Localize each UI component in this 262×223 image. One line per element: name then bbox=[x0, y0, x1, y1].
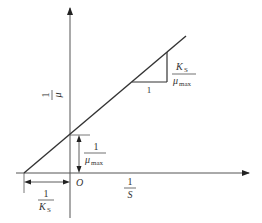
x-axis-label: 1 S bbox=[124, 176, 136, 200]
svg-text:max: max bbox=[179, 80, 192, 88]
svg-text:S: S bbox=[47, 206, 51, 214]
svg-text:μ: μ bbox=[84, 154, 90, 165]
svg-text:μ: μ bbox=[172, 75, 178, 86]
svg-text:1: 1 bbox=[128, 176, 133, 187]
x-intercept-label: 1 K S bbox=[38, 188, 54, 214]
svg-text:K: K bbox=[175, 61, 184, 72]
svg-text:1: 1 bbox=[44, 188, 49, 199]
y-axis-label: 1 μ bbox=[40, 90, 63, 100]
svg-text:max: max bbox=[91, 159, 104, 167]
origin-label: O bbox=[76, 177, 83, 188]
slope-run-label: 1 bbox=[147, 85, 152, 95]
diagram-canvas: 1 μ 1 S O 1 μ max 1 K S K S μ max 1 bbox=[0, 0, 262, 223]
y-intercept-label: 1 μ max bbox=[84, 141, 106, 167]
slope-label: K S μ max bbox=[172, 61, 196, 88]
svg-text:K: K bbox=[38, 201, 47, 212]
svg-text:S: S bbox=[128, 189, 133, 200]
svg-text:S: S bbox=[184, 66, 188, 74]
svg-text:μ: μ bbox=[52, 92, 63, 98]
svg-text:1: 1 bbox=[94, 141, 99, 152]
svg-text:1: 1 bbox=[40, 93, 51, 98]
regression-line bbox=[24, 36, 186, 173]
